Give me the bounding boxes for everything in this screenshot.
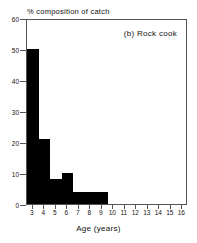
x-tick-label: 3 <box>30 209 34 216</box>
x-tick-label: 13 <box>143 209 150 216</box>
x-tick-label: 9 <box>99 209 103 216</box>
y-tick <box>20 50 26 51</box>
y-tick-label: 10 <box>12 171 19 178</box>
x-tick-label: 5 <box>53 209 57 216</box>
x-tick-label: 6 <box>64 209 68 216</box>
bar <box>50 179 62 204</box>
y-tick <box>20 143 26 144</box>
x-tick-label: 4 <box>41 209 45 216</box>
y-tick <box>20 205 26 206</box>
y-tick-label: 20 <box>12 140 19 147</box>
y-tick-label: 40 <box>12 78 19 85</box>
y-tick-label: 30 <box>12 109 19 116</box>
y-tick <box>20 112 26 113</box>
x-tick-label: 15 <box>166 209 173 216</box>
x-tick-label: 8 <box>87 209 91 216</box>
bar <box>39 139 51 204</box>
x-tick-label: 7 <box>76 209 80 216</box>
y-tick-label: 60 <box>12 16 19 23</box>
x-tick-label: 14 <box>155 209 162 216</box>
y-tick-label: 50 <box>12 47 19 54</box>
x-tick-label: 10 <box>109 209 116 216</box>
chart-figure: % composition of catch (b) Rock cook 010… <box>0 0 197 243</box>
x-tick-label: 16 <box>178 209 185 216</box>
y-tick <box>20 174 26 175</box>
y-tick <box>20 19 26 20</box>
bar <box>27 49 39 204</box>
plot-area: (b) Rock cook <box>26 19 187 205</box>
y-axis-label: % composition of catch <box>27 7 110 16</box>
x-tick-label: 12 <box>132 209 139 216</box>
bar <box>62 173 74 204</box>
x-tick-label: 11 <box>120 209 127 216</box>
y-tick-label: 0 <box>15 202 19 209</box>
bars-layer <box>27 20 186 204</box>
y-tick <box>20 81 26 82</box>
x-axis-label: Age (years) <box>0 224 197 233</box>
bar <box>73 192 108 204</box>
